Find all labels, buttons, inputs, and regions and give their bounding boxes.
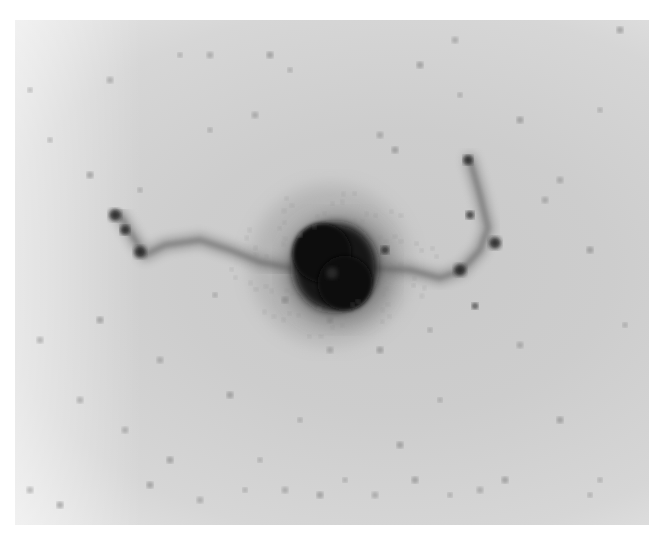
galaxy-photographic-plate — [15, 20, 649, 525]
galaxy-image — [15, 20, 649, 525]
galaxy-core — [293, 223, 377, 311]
